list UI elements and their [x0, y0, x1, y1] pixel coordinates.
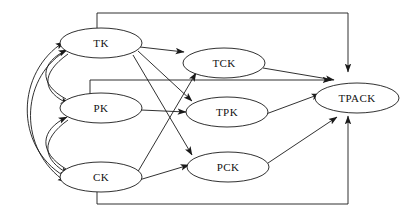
edge-pck-to-tpack — [268, 117, 337, 163]
edge-ck-to-pck — [139, 165, 189, 180]
node-tpk-label: TPK — [216, 106, 238, 118]
tpack-diagram: TK PK CK TCK TPK PCK TPACK — [0, 0, 404, 213]
edge-ck-to-tck — [133, 73, 196, 180]
node-pck[interactable]: PCK — [187, 152, 269, 182]
edge-tck-to-tpack — [263, 68, 334, 80]
node-ck[interactable]: CK — [60, 162, 142, 192]
edge-tpk-to-tpack — [266, 94, 320, 114]
edge-pk-to-tpk — [141, 110, 186, 112]
node-tck-label: TCK — [212, 57, 235, 69]
node-tpack[interactable]: TPACK — [315, 83, 399, 113]
diagram-canvas: TK PK CK TCK TPK PCK TPACK — [0, 0, 404, 213]
node-ck-label: CK — [93, 171, 109, 183]
edge-tk-ck-bidirectional — [27, 42, 66, 182]
node-tpack-label: TPACK — [338, 92, 375, 104]
edge-tk-pk-bidirectional — [46, 50, 69, 104]
edge-pk-to-tpack — [90, 80, 331, 95]
node-pk[interactable]: PK — [60, 93, 142, 123]
edge-tk-to-pck — [133, 55, 192, 155]
node-pk-label: PK — [94, 102, 109, 114]
node-tk-label: TK — [93, 37, 108, 49]
node-tk[interactable]: TK — [60, 28, 142, 58]
edge-pk-ck-bidirectional — [46, 117, 69, 174]
node-pck-label: PCK — [217, 161, 240, 173]
node-tck[interactable]: TCK — [183, 48, 265, 78]
node-tpk[interactable]: TPK — [186, 97, 268, 127]
edge-tk-to-tck — [140, 47, 184, 52]
